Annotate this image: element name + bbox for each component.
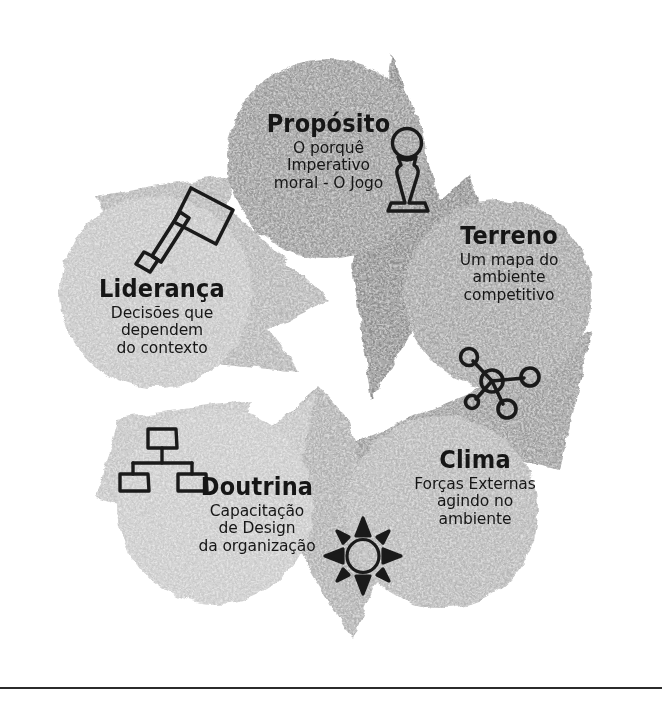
node-circle-terreno: [404, 200, 592, 388]
diagram-canvas: Propósito O porquê Imperativo moral - O …: [0, 0, 662, 701]
node-circle-clima: [346, 416, 538, 608]
node-circle-lideranca: [60, 196, 252, 388]
cycle-diagram: [0, 0, 662, 660]
page-divider: [0, 687, 662, 689]
